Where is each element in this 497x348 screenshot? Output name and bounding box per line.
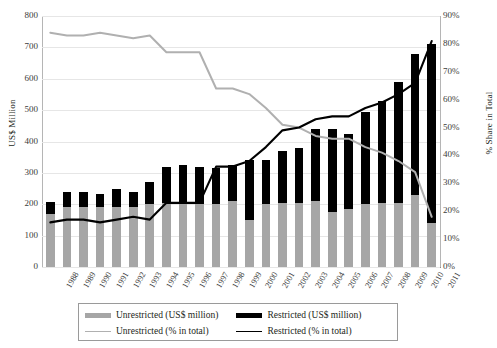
y-axis-right-tick-label: 30% — [443, 177, 477, 187]
legend-label-restricted-bar: Restricted (US$ million) — [267, 310, 361, 320]
x-axis-tick-label: 2009 — [412, 270, 429, 290]
x-axis-tick-label: 1996 — [196, 270, 213, 290]
x-axis-tick-label: 2000 — [263, 270, 280, 290]
y-axis-left-tick-label: 800 — [4, 10, 38, 20]
y-axis-right-tick-label: 70% — [443, 66, 477, 76]
y-axis-right-tick-label: 90% — [443, 10, 477, 20]
y-axis-left-tick-label: 100 — [4, 230, 38, 240]
y-axis-left-tick-label: 400 — [4, 136, 38, 146]
x-axis-tick-label: 2007 — [379, 270, 396, 290]
x-axis-tick-label: 1995 — [180, 270, 197, 290]
x-axis-tick-label: 2006 — [362, 270, 379, 290]
y-axis-right-title: % Share in Total — [484, 83, 494, 163]
x-axis-tick-label: 2004 — [329, 270, 346, 290]
chart-legend: Unrestricted (US$ million) Restricted (U… — [78, 303, 398, 341]
legend-swatch-black-bar-icon — [236, 313, 262, 318]
y-axis-right-tick-label: 20% — [443, 205, 477, 215]
x-axis-tick-labels: 1988198919901991199219931994199519961997… — [42, 268, 441, 308]
legend-label-restricted-line: Restricted (% in total) — [267, 326, 351, 336]
y-axis-left-tick-label: 600 — [4, 73, 38, 83]
y-axis-right-spine — [440, 16, 441, 268]
y-axis-left-ticks: 0100200300400500600700800 — [4, 0, 38, 348]
y-axis-right-tick-label: 0% — [443, 261, 477, 271]
legend-item-unrestricted-line[interactable]: Unrestricted (% in total) — [85, 326, 236, 336]
legend-row-bars: Unrestricted (US$ million) Restricted (U… — [85, 307, 391, 323]
x-axis-tick-label: 1999 — [246, 270, 263, 290]
x-axis-tick-label: 1997 — [213, 270, 230, 290]
chart-container: US$ Million % Share in Total 01002003004… — [0, 0, 497, 348]
legend-row-lines: Unrestricted (% in total) Restricted (% … — [85, 323, 391, 339]
x-axis-tick-label: 1991 — [114, 270, 131, 290]
legend-label-unrestricted-bar: Unrestricted (US$ million) — [116, 310, 218, 320]
x-axis-tick-label: 2008 — [395, 270, 412, 290]
x-axis-tick-label: 1992 — [130, 270, 147, 290]
x-axis-tick-label: 2002 — [296, 270, 313, 290]
line-series-group — [42, 16, 440, 267]
x-axis-tick-label: 1988 — [64, 270, 81, 290]
legend-item-restricted-line[interactable]: Restricted (% in total) — [236, 326, 391, 336]
line-series-unrestricted-share — [50, 33, 431, 217]
y-axis-left-tick-label: 500 — [4, 104, 38, 114]
line-series-restricted-share — [50, 41, 431, 222]
legend-swatch-black-line-icon — [236, 331, 262, 332]
x-axis-tick-label: 2005 — [346, 270, 363, 290]
y-axis-right-tick-label: 10% — [443, 233, 477, 243]
x-axis-tick-label: 2003 — [313, 270, 330, 290]
plot-area — [42, 16, 440, 267]
legend-item-restricted-bar[interactable]: Restricted (US$ million) — [236, 310, 391, 320]
x-axis-tick-label: 1998 — [230, 270, 247, 290]
y-axis-left-tick-label: 700 — [4, 41, 38, 51]
y-axis-right-tick-label: 40% — [443, 149, 477, 159]
legend-swatch-gray-bar-icon — [85, 313, 111, 318]
x-axis-tick-label: 1993 — [147, 270, 164, 290]
y-axis-right-ticks: 0%10%20%30%40%50%60%70%80%90% — [443, 0, 477, 348]
x-axis-tick-label: 2001 — [279, 270, 296, 290]
y-axis-left-tick-label: 0 — [4, 261, 38, 271]
y-axis-right-tick-label: 60% — [443, 94, 477, 104]
x-axis-tick-label: 1989 — [80, 270, 97, 290]
y-axis-right-tick-label: 50% — [443, 122, 477, 132]
x-axis-tick-label: 1994 — [163, 270, 180, 290]
y-axis-right-tick-label: 80% — [443, 38, 477, 48]
legend-label-unrestricted-line: Unrestricted (% in total) — [116, 326, 209, 336]
legend-item-unrestricted-bar[interactable]: Unrestricted (US$ million) — [85, 310, 236, 320]
x-axis-tick-label: 1990 — [97, 270, 114, 290]
y-axis-left-tick-label: 200 — [4, 198, 38, 208]
legend-swatch-gray-line-icon — [85, 331, 111, 332]
y-axis-left-tick-label: 300 — [4, 167, 38, 177]
